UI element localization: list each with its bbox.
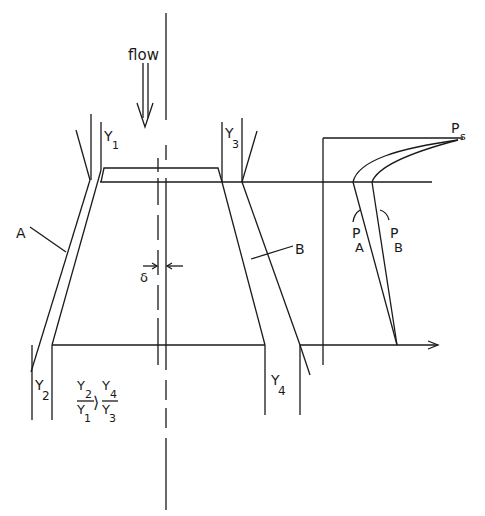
inequality-expression: Y 2 Y 1 ⟩ Y 4 Y 3 (76, 378, 118, 425)
label-a: A (16, 225, 26, 241)
svg-text:P: P (352, 225, 360, 241)
svg-text:Y: Y (76, 378, 85, 393)
flow-label: flow (128, 46, 159, 64)
label-pa: P A (352, 225, 364, 255)
label-y1: Y 1 (103, 128, 119, 152)
label-ps: P s (451, 120, 466, 143)
pb-curve-top (372, 140, 458, 182)
pa-curve-top (353, 140, 458, 182)
label-b: B (295, 241, 305, 257)
svg-text:2: 2 (85, 388, 92, 401)
svg-text:A: A (355, 240, 364, 255)
svg-text:4: 4 (110, 388, 117, 401)
svg-text:3: 3 (232, 138, 239, 151)
label-delta: δ (140, 270, 148, 285)
label-y2: Y 2 (34, 377, 50, 403)
label-pb: P B (390, 225, 403, 255)
svg-text:P: P (451, 120, 459, 136)
svg-text:P: P (390, 225, 398, 241)
pressure-plot (300, 138, 463, 365)
label-y4: Y 4 (270, 372, 286, 398)
svg-text:B: B (394, 240, 403, 255)
svg-text:⟩: ⟩ (93, 393, 99, 412)
diagram-canvas: flow (0, 0, 485, 516)
svg-text:4: 4 (278, 384, 286, 398)
svg-text:s: s (460, 130, 466, 143)
label-y3: Y 3 (224, 125, 239, 151)
flow-arrow-icon (137, 63, 153, 127)
pb-curve (372, 182, 397, 345)
flow-diagram: flow (0, 0, 485, 516)
svg-text:Y: Y (101, 378, 110, 393)
svg-text:3: 3 (109, 412, 116, 425)
svg-text:1: 1 (84, 412, 91, 425)
svg-text:2: 2 (42, 389, 50, 403)
svg-text:1: 1 (112, 139, 119, 152)
pa-curve (353, 182, 397, 345)
delta-dimension (143, 263, 183, 269)
wall-a (30, 114, 265, 420)
wall-b (222, 118, 310, 415)
